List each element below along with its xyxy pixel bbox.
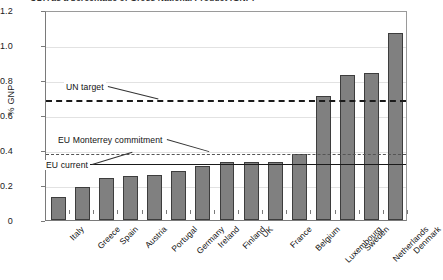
x-tick-label: Austria [143,224,169,250]
y-tick-label: 0.6 [0,111,13,121]
reference-line [46,164,406,165]
x-tick-mark [190,210,191,214]
bar [316,96,331,220]
bar [340,75,355,220]
x-tick-mark [166,210,167,214]
x-axis-tick-labels: ItalyGreeceSpainAustriaPortugalGermanyIr… [45,224,407,280]
bar [75,187,90,220]
x-tick-mark [142,210,143,214]
x-tick-mark [214,210,215,214]
bar [99,178,114,220]
bar [171,171,186,220]
x-tick-mark [359,210,360,214]
bar [195,166,210,220]
annotation-label: UN target [64,82,106,92]
reference-line [46,100,406,102]
y-tick-label: 0.4 [0,146,13,156]
bar [268,162,283,220]
bar-series [46,12,406,220]
x-tick-mark [69,210,70,214]
bar [147,175,162,221]
x-tick-mark [335,210,336,214]
x-tick-label: France [288,224,314,250]
bar [388,33,403,220]
y-tick-label: 1.2 [0,6,13,16]
x-tick-mark [407,210,408,214]
x-tick-mark [93,210,94,214]
y-tick-label: 0.8 [0,76,13,86]
bar [51,197,66,220]
bar [123,176,138,220]
annotation-label: EU current [44,160,90,170]
annotation-label: EU Monterrey commitment [56,135,165,145]
y-tick-mark [41,221,45,222]
x-tick-mark [383,210,384,214]
reference-line [46,154,406,155]
y-tick-label: 0 [0,216,13,226]
x-tick-mark [262,210,263,214]
x-tick-label: Spain [118,224,141,247]
y-tick-label: 1.0 [0,41,13,51]
bar [244,162,259,220]
bar [364,73,379,220]
bar [220,162,235,220]
chart-title: ODA as a percentage of Gross National Pr… [30,0,410,1]
x-tick-label: Belgium [313,224,342,253]
x-tick-mark [117,210,118,214]
x-tick-mark [286,210,287,214]
x-tick-mark [310,210,311,214]
x-tick-label: Italy [68,224,86,242]
plot-area: UN targetEU Monterrey commitmentEU curre… [45,11,407,221]
x-tick-mark [238,210,239,214]
y-tick-label: 0.2 [0,181,13,191]
